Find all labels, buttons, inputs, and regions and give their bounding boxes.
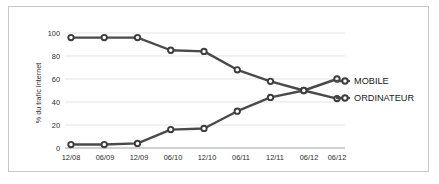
data-series-layer bbox=[68, 35, 339, 147]
data-point bbox=[68, 35, 73, 40]
line-chart: 100 80 60 40 20 0 % du trafic Internet 1… bbox=[0, 0, 439, 184]
y-tick-label-40: 40 bbox=[52, 98, 60, 107]
legend-item-mobile: MOBILE bbox=[337, 76, 389, 86]
x-tick-label-1: 06/09 bbox=[96, 153, 115, 162]
legend-marker-mobile bbox=[342, 78, 347, 83]
y-tick-labels: 100 80 60 40 20 0 bbox=[48, 29, 60, 153]
data-point bbox=[102, 142, 107, 147]
y-tick-label-80: 80 bbox=[52, 52, 60, 61]
data-point bbox=[135, 141, 140, 146]
data-point bbox=[201, 126, 206, 131]
y-axis-title: % du trafic Internet bbox=[34, 63, 43, 123]
x-tick-label-0: 12/08 bbox=[62, 153, 81, 162]
data-point bbox=[301, 88, 306, 93]
y-tick-label-100: 100 bbox=[48, 29, 60, 38]
x-tick-label-8: 06/12 bbox=[328, 153, 347, 162]
y-tick-label-0: 0 bbox=[56, 144, 60, 153]
data-point bbox=[102, 35, 107, 40]
x-tick-label-4: 12/10 bbox=[198, 153, 217, 162]
legend-label-ordinateur: ORDINATEUR bbox=[354, 93, 414, 103]
legend: MOBILE ORDINATEUR bbox=[337, 76, 414, 103]
legend-marker-ordinateur bbox=[342, 95, 347, 100]
series-line-ordinateur bbox=[71, 38, 337, 99]
x-tick-label-2: 12/09 bbox=[130, 153, 149, 162]
data-point bbox=[168, 127, 173, 132]
x-tick-label-6: 12/11 bbox=[266, 153, 284, 162]
data-point bbox=[135, 35, 140, 40]
data-point bbox=[201, 49, 206, 54]
x-tick-labels: 12/08 06/09 12/09 06/10 12/10 06/11 12/1… bbox=[62, 153, 347, 162]
chart-screenshot: 100 80 60 40 20 0 % du trafic Internet 1… bbox=[0, 0, 439, 184]
x-tick-label-7: 06/12 bbox=[300, 153, 319, 162]
legend-item-ordinateur: ORDINATEUR bbox=[337, 93, 414, 103]
data-point bbox=[168, 48, 173, 53]
data-point bbox=[268, 79, 273, 84]
x-tick-label-3: 06/10 bbox=[164, 153, 183, 162]
data-point bbox=[235, 109, 240, 114]
series-mobile bbox=[68, 76, 339, 147]
gridlines bbox=[65, 33, 345, 125]
data-point bbox=[235, 67, 240, 72]
y-tick-label-20: 20 bbox=[52, 121, 60, 130]
legend-label-mobile: MOBILE bbox=[354, 76, 389, 86]
data-point bbox=[68, 142, 73, 147]
data-point bbox=[268, 95, 273, 100]
x-tick-label-5: 06/11 bbox=[232, 153, 250, 162]
y-tick-label-60: 60 bbox=[52, 75, 60, 84]
